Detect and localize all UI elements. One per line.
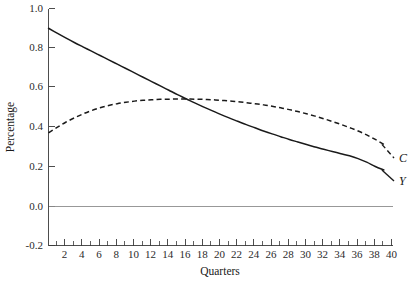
- x-tick-label: 24: [248, 248, 260, 260]
- x-tick-label: 12: [145, 248, 156, 260]
- x-tick-label: 16: [180, 248, 192, 260]
- x-tick-label: 22: [231, 248, 242, 260]
- y-tick-label: 1.0: [29, 2, 43, 14]
- y-tick-labels: 1.0 0.8 0.6 0.4 0.2 0.0 -0.2: [26, 2, 44, 251]
- y-tick-label: -0.2: [26, 239, 43, 251]
- series-line-y: [49, 28, 384, 170]
- x-tick-label: 4: [79, 248, 85, 260]
- series-label-y: Y: [399, 174, 407, 188]
- series-label-leader-c: [382, 144, 394, 158]
- x-tick-label: 34: [334, 248, 346, 260]
- x-tick-label: 26: [266, 248, 278, 260]
- x-tick-label: 36: [352, 248, 364, 260]
- x-tick-label: 14: [162, 248, 174, 260]
- y-axis-title: Percentage: [4, 102, 17, 152]
- x-tick-label: 8: [113, 248, 119, 260]
- x-tick-label: 2: [62, 248, 68, 260]
- x-tick-label: 32: [317, 248, 328, 260]
- y-tick-label: 0.0: [29, 200, 43, 212]
- y-tick-label: 0.4: [29, 120, 43, 132]
- series-label-c: C: [399, 151, 408, 165]
- x-tick-label: 6: [96, 248, 102, 260]
- x-tick-label: 18: [197, 248, 209, 260]
- series-line-c: [49, 99, 384, 144]
- x-tick-label: 20: [214, 248, 226, 260]
- y-axis-ticks: [49, 9, 55, 246]
- x-tick-labels: 2 4 6 8 10 12 14 16 18 20 22 24 26 28 30…: [62, 248, 398, 260]
- series-label-leader-y: [382, 170, 394, 181]
- y-tick-label: 0.2: [29, 160, 43, 172]
- x-tick-label: 10: [128, 248, 140, 260]
- x-tick-label: 40: [386, 248, 398, 260]
- y-tick-label: 0.8: [29, 41, 43, 53]
- chart-figure: 1.0 0.8 0.6 0.4 0.2 0.0 -0.2: [0, 0, 418, 281]
- line-chart: 1.0 0.8 0.6 0.4 0.2 0.0 -0.2: [0, 0, 418, 281]
- x-tick-label: 28: [283, 248, 295, 260]
- x-tick-label: 38: [369, 248, 381, 260]
- x-axis-title: Quarters: [200, 265, 240, 277]
- x-tick-label: 30: [300, 248, 312, 260]
- y-tick-label: 0.6: [29, 80, 43, 92]
